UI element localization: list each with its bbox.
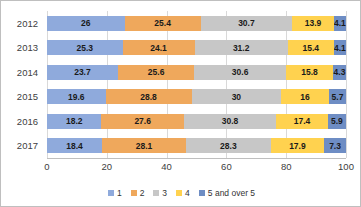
- legend-item[interactable]: 1: [108, 188, 122, 198]
- bar-segment[interactable]: 27.6: [101, 114, 184, 129]
- chart-container: 201220132014201520162017 2625.430.713.94…: [0, 0, 361, 207]
- bar-value-label: 15.8: [301, 67, 318, 77]
- legend-swatch-icon: [199, 190, 205, 196]
- legend-item[interactable]: 3: [153, 188, 167, 198]
- category-axis: 201220132014201520162017: [1, 11, 45, 158]
- bar-row: 2625.430.713.94.1: [47, 16, 346, 31]
- legend-swatch-icon: [153, 190, 159, 196]
- bar-segment[interactable]: 24.1: [123, 40, 195, 55]
- bar-row: 18.428.128.317.97.3: [47, 138, 346, 153]
- legend-label: 1: [117, 188, 122, 198]
- bar-segment[interactable]: 30.8: [184, 114, 276, 129]
- legend-item[interactable]: 2: [131, 188, 145, 198]
- bar-value-label: 5.9: [331, 116, 343, 126]
- bar-row: 18.227.630.817.45.9: [47, 114, 346, 129]
- bar-value-label: 4.1: [334, 18, 346, 28]
- bar-series-group: 2625.430.713.94.125.324.131.215.44.123.7…: [47, 11, 346, 158]
- bar-segment[interactable]: 26: [47, 16, 125, 31]
- category-label: 2014: [1, 65, 45, 80]
- bar-segment[interactable]: 13.9: [292, 16, 334, 31]
- bar-value-label: 25.3: [77, 43, 94, 53]
- bar-segment[interactable]: 28.8: [106, 89, 192, 104]
- bar-segment[interactable]: 4.3: [333, 65, 346, 80]
- bar-value-label: 23.7: [74, 67, 91, 77]
- category-label: 2017: [1, 138, 45, 153]
- legend-label: 5 and over 5: [208, 188, 255, 198]
- x-axis-tick-label: 60: [221, 161, 232, 172]
- category-label: 2015: [1, 89, 45, 104]
- bar-value-label: 15.4: [302, 43, 319, 53]
- bar-segment[interactable]: 28.1: [102, 138, 186, 153]
- legend-label: 2: [140, 188, 145, 198]
- legend-swatch-icon: [108, 190, 114, 196]
- bar-value-label: 30.7: [238, 18, 255, 28]
- bar-segment[interactable]: 15.8: [286, 65, 333, 80]
- bar-value-label: 19.6: [68, 92, 85, 102]
- bar-segment[interactable]: 5.7: [329, 89, 346, 104]
- category-label: 2016: [1, 114, 45, 129]
- bar-segment[interactable]: 31.2: [195, 40, 288, 55]
- x-axis-line: [47, 158, 346, 159]
- legend-swatch-icon: [131, 190, 137, 196]
- bar-segment[interactable]: 17.9: [271, 138, 325, 153]
- bar-segment[interactable]: 18.2: [47, 114, 101, 129]
- bar-value-label: 13.9: [305, 18, 322, 28]
- bar-value-label: 30: [232, 92, 241, 102]
- bar-value-label: 28.1: [136, 141, 153, 151]
- bar-segment[interactable]: 4.1: [334, 40, 346, 55]
- bar-segment[interactable]: 23.7: [47, 65, 118, 80]
- bar-value-label: 28.3: [220, 141, 237, 151]
- bar-value-label: 4.1: [334, 43, 346, 53]
- plot-area: 2625.430.713.94.125.324.131.215.44.123.7…: [47, 11, 346, 158]
- bar-value-label: 31.2: [233, 43, 250, 53]
- bar-segment[interactable]: 17.4: [276, 114, 328, 129]
- bar-value-label: 7.3: [329, 141, 341, 151]
- bar-segment[interactable]: 19.6: [47, 89, 106, 104]
- legend-swatch-icon: [176, 190, 182, 196]
- bar-value-label: 17.9: [289, 141, 306, 151]
- chart-legend: 12345 and over 5: [1, 185, 361, 201]
- bar-value-label: 17.4: [294, 116, 311, 126]
- x-axis-tick-label: 100: [338, 161, 354, 172]
- bar-segment[interactable]: 30.6: [194, 65, 285, 80]
- legend-item[interactable]: 4: [176, 188, 190, 198]
- x-axis-tick-label: 80: [281, 161, 292, 172]
- bar-segment[interactable]: 7.3: [324, 138, 346, 153]
- category-label: 2012: [1, 16, 45, 31]
- bar-value-label: 26: [81, 18, 90, 28]
- bar-value-label: 30.8: [222, 116, 239, 126]
- legend-label: 3: [162, 188, 167, 198]
- bar-segment[interactable]: 25.4: [125, 16, 201, 31]
- bar-row: 19.628.830165.7: [47, 89, 346, 104]
- bar-segment[interactable]: 5.9: [328, 114, 346, 129]
- value-axis: 020406080100: [47, 161, 346, 175]
- category-label: 2013: [1, 40, 45, 55]
- bar-value-label: 24.1: [150, 43, 167, 53]
- bar-value-label: 4.3: [334, 67, 346, 77]
- bar-segment[interactable]: 4.1: [334, 16, 346, 31]
- bar-value-label: 27.6: [134, 116, 151, 126]
- bar-value-label: 5.7: [332, 92, 344, 102]
- bar-segment[interactable]: 15.4: [288, 40, 334, 55]
- bar-segment[interactable]: 30.7: [201, 16, 293, 31]
- bar-row: 23.725.630.615.84.3: [47, 65, 346, 80]
- bar-value-label: 18.4: [66, 141, 83, 151]
- bar-segment[interactable]: 16: [281, 89, 329, 104]
- bar-row: 25.324.131.215.44.1: [47, 40, 346, 55]
- bar-segment[interactable]: 25.6: [118, 65, 195, 80]
- bar-segment[interactable]: 18.4: [47, 138, 102, 153]
- legend-label: 4: [185, 188, 190, 198]
- x-axis-tick-label: 40: [161, 161, 172, 172]
- x-axis-tick-label: 20: [102, 161, 113, 172]
- bar-value-label: 28.8: [140, 92, 157, 102]
- x-axis-tick-label: 0: [44, 161, 49, 172]
- bar-segment[interactable]: 30: [192, 89, 282, 104]
- bar-segment[interactable]: 28.3: [186, 138, 271, 153]
- bar-value-label: 30.6: [232, 67, 249, 77]
- gridline: [346, 11, 347, 158]
- bar-value-label: 18.2: [66, 116, 83, 126]
- bar-value-label: 25.6: [148, 67, 165, 77]
- bar-value-label: 16: [300, 92, 309, 102]
- bar-segment[interactable]: 25.3: [47, 40, 123, 55]
- legend-item[interactable]: 5 and over 5: [199, 188, 255, 198]
